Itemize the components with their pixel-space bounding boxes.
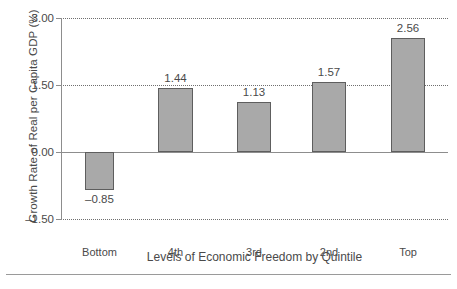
bar-value-2nd: 1.57 (318, 66, 340, 78)
bar-value-top: 2.56 (397, 22, 419, 34)
y-tick-label-0: 0.00 (8, 146, 54, 158)
bar-4th[interactable] (158, 88, 193, 152)
y-tick-mark-0 (56, 152, 62, 153)
plot-area: –0.85 1.44 1.13 1.57 2.56 Bottom 4th 3rd… (61, 18, 448, 219)
bar-bottom[interactable] (85, 152, 114, 190)
bar-value-4th: 1.44 (164, 72, 186, 84)
y-tick-mark-neg-1-5 (56, 219, 62, 220)
y-tick-mark-1-5 (56, 85, 62, 86)
y-tick-label-neg-1-5: –1.50 (8, 213, 54, 225)
bar-top[interactable] (391, 38, 425, 152)
y-tick-label-1-5: 1.50 (8, 79, 54, 91)
chart-figure: Growth Rate of Real per Capita GDP (%) 3… (0, 0, 457, 289)
bar-2nd[interactable] (312, 82, 346, 152)
zero-line (61, 152, 448, 153)
y-tick-mark-3 (56, 18, 62, 19)
bar-3rd[interactable] (237, 102, 271, 152)
bar-value-bottom: –0.85 (85, 193, 114, 205)
bar-value-3rd: 1.13 (243, 86, 265, 98)
gridline-3 (61, 18, 448, 19)
x-axis-title: Levels of Economic Freedom by Quintile (61, 250, 448, 264)
y-axis-title: Growth Rate of Real per Capita GDP (%) (27, 1, 39, 231)
y-axis-spine (61, 18, 62, 219)
bottom-rule (6, 274, 451, 275)
gridline-neg-1-5 (61, 219, 448, 220)
y-tick-label-3: 3.00 (8, 12, 54, 24)
